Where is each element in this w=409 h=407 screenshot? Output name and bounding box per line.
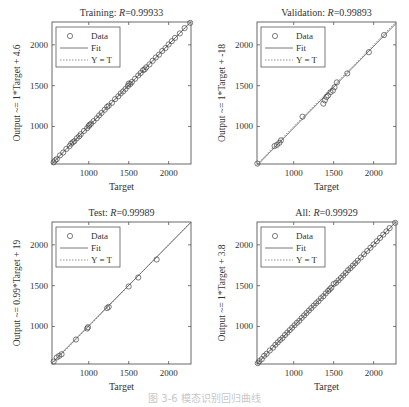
y-tick-label: 2000 xyxy=(235,240,254,250)
legend-yt-label: Y = T xyxy=(91,255,113,265)
y-tick-label: 1000 xyxy=(235,321,254,331)
chart-title: Test: R=0.99989 xyxy=(88,207,154,218)
x-tick-label: 1500 xyxy=(120,168,139,178)
chart-training: Training: R=0.99933100015002000100015002… xyxy=(0,0,204,196)
y-tick-label: 2000 xyxy=(235,40,254,50)
plot-svg: Test: R=0.99989100015002000100015002000T… xyxy=(0,200,204,396)
legend: DataFitY = T xyxy=(261,227,325,267)
y-tick-label: 1500 xyxy=(30,281,49,291)
x-tick-label: 1000 xyxy=(80,368,99,378)
x-tick-label: 2000 xyxy=(365,168,384,178)
x-axis-label: Target xyxy=(314,181,339,192)
legend-data-label: Data xyxy=(91,231,108,241)
legend-yt-label: Y = T xyxy=(91,55,113,65)
x-tick-label: 1000 xyxy=(285,368,304,378)
legend-fit-label: Fit xyxy=(296,43,307,53)
plot-svg: Training: R=0.99933100015002000100015002… xyxy=(0,0,204,196)
x-tick-label: 1500 xyxy=(325,368,344,378)
x-tick-label: 1500 xyxy=(325,168,344,178)
x-axis-label: Target xyxy=(109,181,134,192)
legend-yt-label: Y = T xyxy=(296,255,318,265)
legend: DataFitY = T xyxy=(56,27,120,67)
y-tick-label: 1500 xyxy=(235,81,254,91)
x-tick-label: 2000 xyxy=(160,368,179,378)
y-tick-label: 1000 xyxy=(235,121,254,131)
legend-fit-label: Fit xyxy=(91,43,102,53)
y-axis-label: Output ~= 1*Target + 4.6 xyxy=(12,44,22,141)
y-tick-label: 1000 xyxy=(30,321,49,331)
chart-validation: Validation: R=0.998931000150020001000150… xyxy=(205,0,409,196)
y-axis-label: Output ~= 0.99*Target + 19 xyxy=(12,239,22,346)
legend: DataFitY = T xyxy=(56,227,120,267)
x-tick-label: 2000 xyxy=(160,168,179,178)
legend-data-label: Data xyxy=(91,31,108,41)
y-tick-label: 1500 xyxy=(30,81,49,91)
y-tick-label: 2000 xyxy=(30,40,49,50)
x-tick-label: 2000 xyxy=(365,368,384,378)
legend-data-label: Data xyxy=(296,31,313,41)
y-tick-label: 1000 xyxy=(30,121,49,131)
x-tick-label: 1000 xyxy=(80,168,99,178)
legend-yt-label: Y = T xyxy=(296,55,318,65)
y-axis-label: Output ~= 1*Target + -18 xyxy=(217,44,227,142)
x-tick-label: 1000 xyxy=(285,168,304,178)
legend-fit-label: Fit xyxy=(296,243,307,253)
y-axis-label: Output ~= 1*Target + 3.8 xyxy=(217,244,227,341)
legend-fit-label: Fit xyxy=(91,243,102,253)
plot-svg: Validation: R=0.998931000150020001000150… xyxy=(205,0,409,196)
chart-title: All: R=0.99929 xyxy=(295,207,357,218)
y-tick-label: 1500 xyxy=(235,281,254,291)
chart-title: Validation: R=0.99893 xyxy=(281,7,372,18)
y-tick-label: 2000 xyxy=(30,240,49,250)
x-tick-label: 1500 xyxy=(120,368,139,378)
legend: DataFitY = T xyxy=(261,27,325,67)
figure-caption: 图 3-6 模态识别回归曲线 xyxy=(0,390,409,405)
legend-data-label: Data xyxy=(296,231,313,241)
chart-test: Test: R=0.99989100015002000100015002000T… xyxy=(0,200,204,396)
chart-title: Training: R=0.99933 xyxy=(80,7,164,18)
plot-svg: All: R=0.99929100015002000100015002000Ta… xyxy=(205,200,409,396)
chart-all: All: R=0.99929100015002000100015002000Ta… xyxy=(205,200,409,396)
